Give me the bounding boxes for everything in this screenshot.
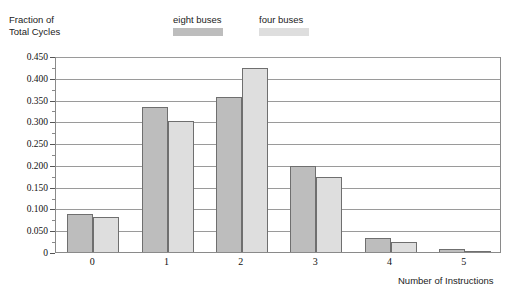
bar-four-buses-4 (391, 242, 417, 252)
bar-group (365, 56, 417, 252)
x-tick-label: 0 (90, 256, 95, 267)
bar-group (216, 56, 268, 252)
bar-eight-buses-4 (365, 238, 391, 252)
bar-eight-buses-1 (142, 107, 168, 252)
y-tick-mark (50, 253, 55, 254)
legend-label-eight-buses: eight buses (173, 14, 222, 25)
x-tick-label: 1 (164, 256, 169, 267)
y-tick-label: 0.350 (27, 96, 48, 106)
y-tick-label: 0.050 (27, 226, 48, 236)
bar-group (142, 56, 194, 252)
bar-eight-buses-2 (216, 97, 242, 252)
bar-four-buses-1 (168, 121, 194, 252)
chart-legend: eight buses four buses (173, 14, 309, 36)
x-tick-label: 3 (313, 256, 318, 267)
legend-swatch-four-buses (259, 28, 309, 36)
x-tick-label: 5 (461, 256, 466, 267)
bar-group (67, 56, 119, 252)
y-tick-label: 0.400 (27, 74, 48, 84)
bar-eight-buses-0 (67, 214, 93, 252)
x-axis-tick-labels: 012345 (55, 256, 501, 272)
legend-item-eight-buses: eight buses (173, 14, 223, 36)
y-tick-label: 0.250 (27, 139, 48, 149)
legend-item-four-buses: four buses (259, 14, 309, 36)
bars-layer (56, 57, 500, 252)
y-tick-label: 0.450 (27, 52, 48, 62)
bar-four-buses-2 (242, 68, 268, 252)
x-tick-label: 4 (387, 256, 392, 267)
bar-four-buses-3 (316, 177, 342, 252)
x-axis-title: Number of Instructions (398, 275, 494, 286)
y-tick-label: 0 (43, 248, 48, 258)
y-tick-label: 0.150 (27, 183, 48, 193)
bar-group (439, 56, 491, 252)
y-axis-tick-labels: 00.0500.1000.1500.2000.2500.3000.3500.40… (0, 0, 55, 298)
bar-group (290, 56, 342, 252)
bar-eight-buses-5 (439, 249, 465, 252)
y-tick-label: 0.100 (27, 204, 48, 214)
bar-four-buses-0 (93, 217, 119, 252)
x-tick-label: 2 (238, 256, 243, 267)
bar-four-buses-5 (465, 251, 491, 252)
legend-label-four-buses: four buses (259, 14, 303, 25)
bar-eight-buses-3 (290, 166, 316, 252)
y-tick-label: 0.300 (27, 117, 48, 127)
legend-swatch-eight-buses (173, 28, 223, 36)
plot-area (55, 57, 501, 253)
y-tick-label: 0.200 (27, 161, 48, 171)
